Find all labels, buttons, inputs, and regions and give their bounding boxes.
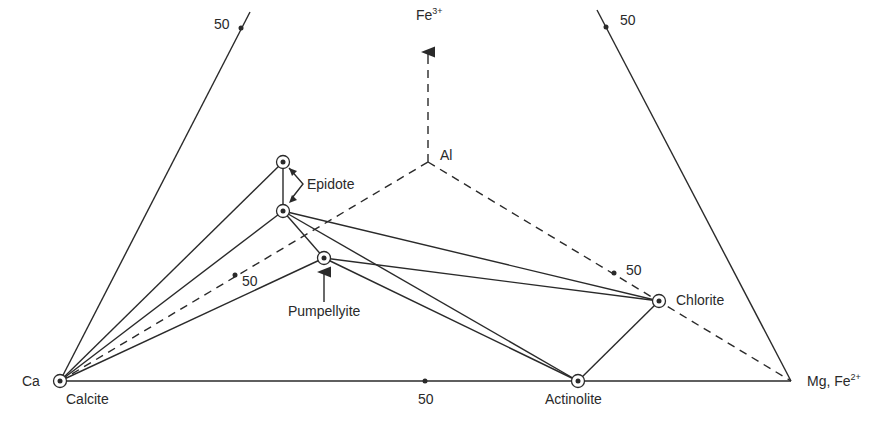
tie-lines <box>60 162 659 381</box>
dashed-al-mg <box>428 162 791 381</box>
dashed-ca-al <box>60 162 428 381</box>
corner-label-al: Al <box>440 147 452 163</box>
tick-dot-base <box>423 379 428 384</box>
mineral-label-chlorite: Chlorite <box>676 292 724 308</box>
phase-point-epidote-al <box>277 205 290 218</box>
phase-point-pumpellyite <box>318 252 331 265</box>
mineral-label-pumpellyite: Pumpellyite <box>288 303 361 319</box>
corner-label-ca: Ca <box>22 373 40 389</box>
phase-point-actinolite <box>572 375 585 388</box>
corner-label-fe3: Fe3+ <box>416 6 443 23</box>
mineral-label-calcite: Calcite <box>66 391 109 407</box>
phase-point-chlorite <box>653 295 666 308</box>
left-outer-line <box>60 12 250 381</box>
tick-label-base: 50 <box>418 391 434 407</box>
epidote-arrow-down-icon <box>289 195 297 203</box>
tick-dot-left-dashed <box>233 273 238 278</box>
tick-dot-right-top <box>604 25 609 30</box>
tick-dot-left-top <box>239 26 244 31</box>
corner-label-mg-fe: Mg, Fe2+ <box>807 372 861 389</box>
tick-label-left-dashed: 50 <box>242 273 258 289</box>
tick-label-left-top: 50 <box>214 16 230 32</box>
ternary-diagram: Fe3+ Al Ca Mg, Fe2+ Calcite Epidote Pump… <box>0 0 890 428</box>
tick-dot-right-dashed <box>612 271 617 276</box>
phase-point-epidote-fe <box>277 156 290 169</box>
phase-point-calcite <box>54 375 67 388</box>
right-outer-line <box>597 10 791 381</box>
tick-label-right-dashed: 50 <box>626 262 642 278</box>
tick-label-right-top: 50 <box>620 12 636 28</box>
mineral-label-epidote: Epidote <box>307 176 355 192</box>
mineral-label-actinolite: Actinolite <box>545 391 602 407</box>
